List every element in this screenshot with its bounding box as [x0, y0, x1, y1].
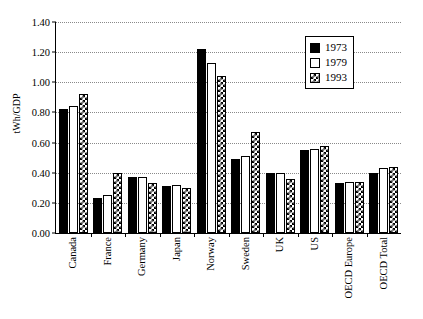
chart-legend: 1973 1979 1993	[305, 36, 354, 89]
x-axis-label: Norway	[205, 237, 216, 271]
y-tick-label: 1.00	[32, 77, 50, 88]
bar	[172, 185, 181, 233]
bar	[59, 109, 68, 233]
legend-label-1973: 1973	[325, 42, 347, 53]
bar	[79, 94, 88, 233]
legend-label-1979: 1979	[325, 57, 347, 68]
bar	[103, 195, 112, 233]
bar	[369, 173, 378, 233]
bar	[197, 49, 206, 233]
bar	[69, 106, 78, 233]
bar	[217, 76, 226, 233]
y-tick-mark	[52, 202, 56, 203]
legend-label-1993: 1993	[325, 72, 347, 83]
bar-chart: tWh/GDP 0.000.200.400.600.801.001.201.40…	[0, 0, 423, 319]
bar	[113, 173, 122, 233]
x-axis-label: UK	[274, 237, 285, 252]
bar-group	[160, 22, 195, 233]
x-axis-label: Canada	[67, 237, 78, 269]
bar	[148, 183, 157, 233]
bar	[389, 167, 398, 233]
x-label-cell: Sweden	[228, 237, 263, 317]
bar-group	[229, 22, 264, 233]
bar-group	[91, 22, 126, 233]
bar	[162, 186, 171, 233]
bar	[345, 182, 354, 233]
y-tick-mark	[52, 112, 56, 113]
y-tick-mark	[52, 172, 56, 173]
bar	[231, 159, 240, 233]
x-label-cell: UK	[262, 237, 297, 317]
bar-group	[194, 22, 229, 233]
x-axis-label: OECD Europe	[343, 237, 354, 299]
bar	[300, 150, 309, 233]
y-tick-label: 0.40	[32, 167, 50, 178]
x-label-cell: France	[90, 237, 125, 317]
legend-item: 1993	[310, 70, 347, 85]
bar	[355, 182, 364, 233]
bar	[241, 156, 250, 233]
y-tick-label: 0.60	[32, 137, 50, 148]
bar	[276, 173, 285, 233]
bar	[138, 177, 147, 233]
bar-group	[263, 22, 298, 233]
bar	[128, 177, 137, 233]
y-tick-label: 0.80	[32, 107, 50, 118]
legend-swatch-1993	[310, 73, 320, 83]
bar	[286, 179, 295, 233]
y-tick-label: 0.00	[32, 228, 50, 239]
bar	[207, 63, 216, 233]
x-axis-label: OECD Total	[377, 237, 388, 289]
bar	[379, 168, 388, 233]
bar	[320, 146, 329, 233]
x-axis-label: Germany	[136, 237, 147, 276]
x-axis-labels: CanadaFranceGermanyJapanNorwaySwedenUKUS…	[55, 237, 400, 317]
y-tick-mark	[52, 52, 56, 53]
x-axis-label: France	[101, 237, 112, 266]
y-tick-mark	[52, 142, 56, 143]
legend-item: 1973	[310, 40, 347, 55]
legend-item: 1979	[310, 55, 347, 70]
bar-group	[367, 22, 402, 233]
y-tick-mark	[52, 82, 56, 83]
x-label-cell: Norway	[193, 237, 228, 317]
y-tick-label: 1.20	[32, 47, 50, 58]
x-axis-label: Japan	[170, 237, 181, 261]
bar	[335, 183, 344, 233]
x-label-cell: Canada	[55, 237, 90, 317]
bar	[266, 173, 275, 233]
x-axis-label: US	[308, 237, 319, 250]
y-tick-mark	[52, 233, 56, 234]
x-label-cell: Japan	[159, 237, 194, 317]
x-label-cell: OECD Europe	[331, 237, 366, 317]
bar-group	[125, 22, 160, 233]
y-tick-label: 1.40	[32, 17, 50, 28]
y-tick-label: 0.20	[32, 197, 50, 208]
y-tick-mark	[52, 22, 56, 23]
x-label-cell: OECD Total	[366, 237, 401, 317]
x-label-cell: US	[297, 237, 332, 317]
bar	[251, 132, 260, 233]
bar	[93, 198, 102, 233]
x-label-cell: Germany	[124, 237, 159, 317]
x-axis-label: Sweden	[239, 237, 250, 270]
y-axis-title: tWh/GDP	[11, 84, 22, 144]
bar-group	[56, 22, 91, 233]
legend-swatch-1973	[310, 43, 320, 53]
bar	[310, 149, 319, 233]
legend-swatch-1979	[310, 58, 320, 68]
bar	[182, 188, 191, 233]
